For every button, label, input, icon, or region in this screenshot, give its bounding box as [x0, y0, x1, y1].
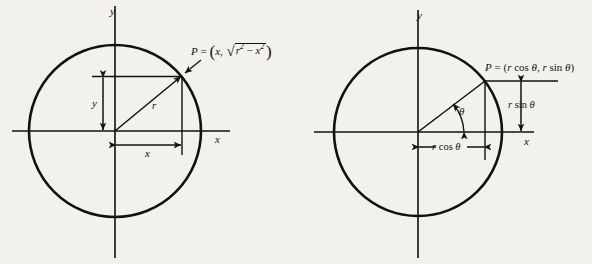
vertical-dimension-fn: sin	[515, 99, 527, 110]
radical-sign: √	[227, 43, 235, 59]
radicand-exp-1: 2	[240, 42, 244, 51]
radicand-exp-2: 2	[260, 42, 264, 51]
radicand: r2 − x2	[235, 43, 266, 56]
point-label-equals: =	[494, 61, 500, 73]
vertical-dimension-label: r sin θ	[508, 100, 535, 111]
vertical-dimension-r: r	[508, 99, 512, 110]
horizontal-dimension-label: r cos θ	[432, 142, 461, 153]
horizontal-dimension-label: x	[145, 148, 150, 159]
y-axis-label: y	[417, 10, 422, 21]
point-label-first-fn: cos	[514, 61, 529, 73]
x-axis-label: x	[215, 134, 220, 145]
point-label-first-r: r	[507, 61, 511, 73]
point-label-close-paren: )	[266, 42, 272, 61]
point-label-close-paren: )	[571, 61, 575, 73]
point-label-polar: P = (r cos θ, r sin θ)	[485, 62, 574, 73]
figure-root: y x y x r P = (x, √r2 − x2)	[0, 0, 592, 264]
point-label-second-fn: sin	[550, 61, 563, 73]
point-label-comma: ,	[537, 61, 540, 73]
point-label-open-paren: (	[209, 42, 215, 61]
horizontal-dimension-fn: cos	[439, 141, 453, 152]
circle-polar-coordinates	[296, 0, 592, 264]
circle-cartesian-coordinates	[0, 0, 296, 264]
point-label-comma: ,	[220, 45, 223, 57]
radicand-operator: −	[247, 44, 253, 56]
point-label-prefix: P	[191, 45, 198, 57]
point-label-leader-line	[185, 60, 201, 73]
x-axis-label: x	[524, 136, 529, 147]
point-label-cartesian: P = (x, √r2 − x2)	[191, 41, 272, 58]
horizontal-dimension-theta: θ	[455, 141, 460, 152]
radius-segment	[115, 77, 181, 132]
radical-expression: √r2 − x2	[226, 43, 267, 58]
radius-label: r	[152, 100, 156, 111]
vertical-dimension-theta: θ	[530, 99, 535, 110]
point-label-equals: =	[200, 45, 206, 57]
theta-angle-label: θ	[459, 106, 464, 117]
point-label-second-r: r	[542, 61, 546, 73]
horizontal-dimension-r: r	[432, 141, 436, 152]
y-axis-label: y	[110, 6, 115, 17]
vertical-dimension-label: y	[92, 98, 97, 109]
point-label-prefix: P	[485, 61, 492, 73]
radius-segment	[418, 81, 485, 132]
